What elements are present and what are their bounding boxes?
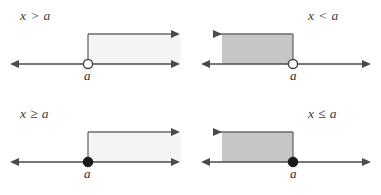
point-label-top-left: a — [84, 68, 91, 84]
inequality-label-bottom-right: x ≤ a — [308, 106, 337, 122]
shaded-region — [88, 132, 180, 162]
inequality-label-bottom-left: x ≥ a — [20, 106, 49, 122]
panel-x-greater-than-a: x > a a — [0, 0, 190, 97]
panel-x-less-than-a: x < a a — [191, 0, 381, 97]
shaded-region — [88, 34, 180, 64]
point-label-top-right: a — [290, 68, 297, 84]
panel-x-greater-equal-a: x ≥ a a — [0, 98, 190, 195]
number-line-diagram-top-right — [191, 0, 381, 97]
point-label-bottom-left: a — [84, 166, 91, 182]
point-label-bottom-right: a — [290, 166, 297, 182]
panel-x-less-equal-a: x ≤ a a — [191, 98, 381, 195]
shaded-region — [222, 132, 293, 162]
shaded-region — [222, 34, 293, 64]
number-line-diagram-bottom-right — [191, 98, 381, 195]
inequality-figure: x > a a x < a a — [0, 0, 381, 195]
inequality-label-top-right: x < a — [308, 8, 339, 24]
inequality-label-top-left: x > a — [20, 8, 51, 24]
